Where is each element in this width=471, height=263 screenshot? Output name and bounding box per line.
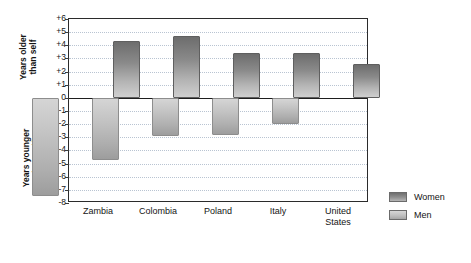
bar-women-italy xyxy=(293,53,320,98)
bars-layer xyxy=(69,19,367,201)
legend-swatch-men xyxy=(389,210,407,220)
bar-men-italy xyxy=(212,98,239,135)
axis-caption-positive: Years older than self xyxy=(18,22,40,92)
bar-women-united-states xyxy=(353,64,380,98)
y-tick-label: -8 xyxy=(44,198,66,207)
bar-men-poland xyxy=(152,98,179,136)
bar-women-zambia xyxy=(113,41,140,98)
bar-women-colombia xyxy=(173,36,200,98)
legend-label: Women xyxy=(414,192,445,202)
bar-men-zambia xyxy=(32,98,59,197)
bar-men-colombia xyxy=(92,98,119,160)
legend-label: Men xyxy=(414,210,432,220)
y-tick-mark xyxy=(65,203,69,204)
legend-swatch-women xyxy=(389,192,407,202)
bar-men-united-states xyxy=(272,98,299,124)
x-label-united-states: United States xyxy=(301,206,375,228)
y-tick-label: +4 xyxy=(44,40,66,49)
y-tick-label: +1 xyxy=(44,79,66,88)
bar-chart: Years older than self Years younger than… xyxy=(0,0,471,263)
legend-item-men[interactable]: Men xyxy=(389,207,469,222)
bar-women-poland xyxy=(233,53,260,98)
y-tick-label: +6 xyxy=(44,14,66,23)
legend-item-women[interactable]: Women xyxy=(389,189,469,204)
x-axis-category-labels: ZambiaColombiaPolandItalyUnited States xyxy=(68,206,368,246)
y-tick-label: +5 xyxy=(44,27,66,36)
plot-area xyxy=(68,18,368,202)
y-tick-label: +3 xyxy=(44,53,66,62)
legend: WomenMen xyxy=(389,189,469,225)
y-tick-label: +2 xyxy=(44,66,66,75)
